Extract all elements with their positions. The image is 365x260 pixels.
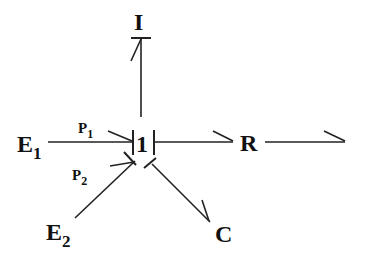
bond-label-p2: P2 (72, 167, 87, 188)
one-junction: 1 (133, 130, 154, 157)
bond-line (75, 161, 135, 218)
capacitor-label: C (215, 221, 232, 247)
source-e1: E1 (17, 131, 42, 163)
bond-graph-diagram: I 1 E1 P1 R P2 E2 C (0, 0, 365, 260)
bond-junction-to-capacitor (144, 158, 210, 222)
half-arrow-icon (108, 131, 132, 141)
bond-label-p1: P1 (78, 120, 93, 141)
junction-label: 1 (136, 131, 148, 157)
half-arrow-icon (324, 131, 345, 141)
bond-junction-to-resistor (154, 131, 233, 142)
inertia-element: I (134, 9, 143, 35)
bond-junction-to-inertia (131, 38, 151, 117)
bond-line (152, 164, 210, 222)
source-e2-label: E2 (46, 219, 71, 251)
resistor-label: R (240, 130, 258, 156)
source-e1-label: E1 (17, 131, 42, 163)
half-arrow-icon (213, 131, 233, 141)
half-arrow-icon (131, 39, 141, 61)
bond-resistor-out (265, 131, 345, 142)
inertia-label: I (134, 9, 143, 35)
